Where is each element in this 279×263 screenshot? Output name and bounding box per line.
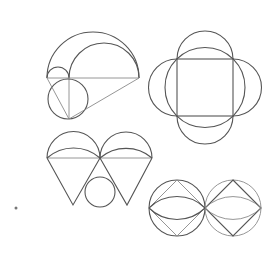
- inscribed-circle: [48, 79, 88, 119]
- left-flat-arc: [47, 148, 100, 158]
- right-semicircle: [233, 59, 262, 116]
- stray-dot: [15, 207, 18, 210]
- left-circle: [149, 180, 205, 236]
- right-chord: [69, 78, 139, 119]
- bottom-semicircle: [177, 116, 233, 144]
- right-lens-bottom: [205, 208, 261, 219]
- left-chord: [47, 78, 69, 119]
- left-triangle: [47, 158, 100, 205]
- right-triangle: [100, 158, 152, 205]
- figure-twin-circles-diamonds: [149, 180, 261, 236]
- right-flat-arc: [100, 148, 152, 158]
- top-semicircle: [177, 31, 233, 59]
- square: [177, 59, 233, 116]
- figure-square-quatrefoil: [149, 31, 262, 144]
- diagram-canvas: [0, 0, 279, 263]
- left-lens-top: [149, 197, 205, 208]
- left-semicircle: [47, 132, 100, 158]
- left-semicircle: [149, 59, 178, 116]
- inscribed-circle: [85, 177, 115, 207]
- right-semicircle: [100, 132, 152, 158]
- figure-semicircle-arbelos: [47, 32, 139, 119]
- right-lens-top: [205, 197, 261, 208]
- figure-twin-cones: [47, 132, 152, 207]
- right-circle: [205, 180, 261, 236]
- left-lens-bottom: [149, 208, 205, 219]
- small-semicircle: [47, 67, 69, 78]
- large-semicircle: [47, 32, 139, 78]
